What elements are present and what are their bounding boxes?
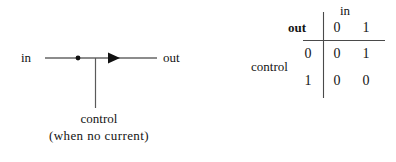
arrowhead-icon (108, 53, 120, 64)
table-row-group-label: control (251, 60, 288, 73)
table-column-header-1: 1 (356, 21, 376, 35)
figure-root: in out control (when no current) in out … (0, 0, 396, 162)
table-cell: 0 (327, 74, 347, 88)
table-column-group-label: in (340, 4, 350, 17)
table-cell: 0 (356, 74, 376, 88)
table-column-header-0: 0 (327, 21, 347, 35)
diagram-caption: control (when no current) (0, 110, 198, 144)
circuit-diagram: in out control (when no current) (0, 0, 198, 162)
table-cell: 0 (327, 47, 347, 61)
table-output-label: out (288, 21, 306, 34)
table-row-header-1: 1 (298, 74, 318, 88)
table-row-header-0: 0 (298, 47, 318, 61)
caption-line-condition: (when no current) (0, 127, 198, 144)
truth-table: in out control 0 1 0 1 0 1 0 0 (198, 0, 396, 162)
table-cell: 1 (356, 47, 376, 61)
junction-dot (76, 56, 81, 61)
caption-line-control: control (0, 110, 198, 127)
